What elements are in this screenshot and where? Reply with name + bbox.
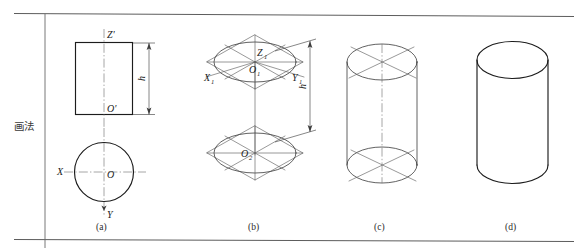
panel-d-top-ellipse bbox=[477, 42, 548, 79]
panel-d: (d) bbox=[477, 42, 548, 234]
panel-b-label-z1: Z bbox=[257, 47, 263, 58]
panel-b-label-x1-subscript: 1 bbox=[211, 78, 214, 85]
panel-c-top-construction-1 bbox=[351, 47, 416, 78]
panel-a-label-o-prime: O' bbox=[107, 103, 117, 114]
panel-b-label-x1: X bbox=[203, 72, 211, 83]
panel-b-label-z1-subscript: 1 bbox=[264, 53, 267, 60]
panel-a-label-x: X bbox=[56, 166, 64, 177]
panel-b: Z 1 X 1 Y 1 O 1 O 2 h (b) bbox=[203, 35, 316, 233]
panel-a-dim-label-h: h bbox=[136, 76, 147, 81]
panel-b-label-y1: Y bbox=[292, 72, 299, 83]
panel-a-dimension-h: h bbox=[133, 43, 155, 115]
panel-b-label-o1: O bbox=[249, 64, 256, 75]
panel-c-top-construction-2 bbox=[349, 47, 414, 78]
panel-c-bottom-construction-1 bbox=[351, 150, 416, 181]
panel-a-label-z-prime: Z' bbox=[107, 29, 116, 40]
frame-bottom-rule bbox=[14, 240, 574, 242]
panel-b-label-y1-subscript: 1 bbox=[299, 78, 302, 85]
panel-c-caption: (c) bbox=[374, 222, 385, 233]
frame-top-rule bbox=[14, 14, 574, 17]
panel-d-bottom-arc bbox=[477, 165, 548, 184]
panel-b-x1-axis bbox=[206, 62, 255, 77]
panel-a-label-y: Y bbox=[107, 209, 114, 220]
figure-page: 画法 Z' O' X O Y bbox=[0, 0, 574, 251]
panel-b-label-o1-subscript: 1 bbox=[257, 70, 260, 77]
panel-c: (c) bbox=[347, 44, 417, 233]
panel-a: Z' O' X O Y h (a) bbox=[56, 29, 155, 233]
panel-c-bottom-construction-2 bbox=[349, 150, 414, 181]
panel-b-dim-label-h: h bbox=[297, 84, 308, 89]
panel-a-caption: (a) bbox=[96, 222, 107, 233]
panel-d-caption: (d) bbox=[505, 222, 516, 233]
panel-b-dimension-h: h bbox=[275, 39, 316, 142]
panel-b-caption: (b) bbox=[248, 222, 259, 233]
row-label-huafa: 画法 bbox=[14, 120, 34, 132]
panel-b-lower-plane bbox=[207, 126, 303, 180]
technical-drawing-figure: 画法 Z' O' X O Y bbox=[0, 0, 574, 251]
figure-frame bbox=[14, 14, 574, 249]
panel-b-label-o2: O bbox=[241, 148, 248, 159]
panel-a-label-o: O bbox=[107, 169, 114, 180]
